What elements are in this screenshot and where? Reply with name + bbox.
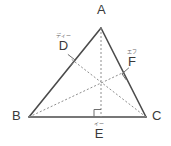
- vertex-label-b: B: [12, 109, 21, 122]
- right-angle-mark-f: [122, 68, 129, 80]
- foot-label-e: イー E: [94, 121, 104, 140]
- foot-label-d-base: D: [59, 39, 68, 52]
- altitude-b-to-f: [29, 72, 126, 118]
- geometry-svg: [0, 0, 171, 146]
- geometry-figure: A B C ディー D エフ F イー E: [0, 0, 171, 146]
- foot-label-e-base: E: [95, 127, 104, 140]
- right-angle-mark-e: [94, 110, 101, 117]
- foot-label-f: エフ F: [127, 49, 137, 68]
- vertex-label-a: A: [97, 3, 106, 16]
- foot-label-d: ディー D: [56, 33, 71, 52]
- foot-label-f-base: F: [128, 55, 136, 68]
- vertex-label-c: C: [152, 109, 161, 122]
